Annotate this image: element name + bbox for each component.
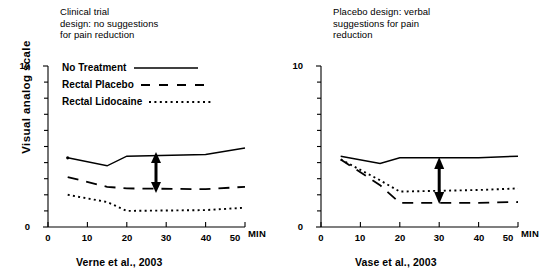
series-line-rectal-lidocaine-right (341, 159, 518, 191)
axis-lines-left (48, 66, 245, 227)
plot-area-right (273, 0, 553, 278)
y-axis-ticks-right (316, 66, 321, 227)
study-citation-right: Vase et al., 2003 (355, 256, 437, 268)
series-line-no-treatment-right (341, 156, 518, 163)
panel-vase: Placebo design: verbal suggestions for p… (273, 0, 553, 278)
effect-size-arrow-right (434, 157, 444, 204)
panel-verne: Clinical trial design: no suggestions fo… (0, 0, 280, 278)
effect-size-arrow-left (151, 152, 161, 193)
x-axis-ticks-right (321, 222, 518, 227)
x-axis-ticks-left (48, 222, 245, 227)
y-axis-ticks-left (43, 66, 48, 227)
figure-root: Visual analog scale Clinical trial desig… (0, 0, 553, 278)
series-line-rectal-lidocaine-left (68, 195, 245, 211)
study-citation-left: Verne et al., 2003 (76, 256, 162, 268)
plot-area-left (0, 0, 280, 278)
series-marker-no-treatment-left (66, 156, 69, 159)
series-line-rectal-placebo-right (341, 159, 518, 203)
